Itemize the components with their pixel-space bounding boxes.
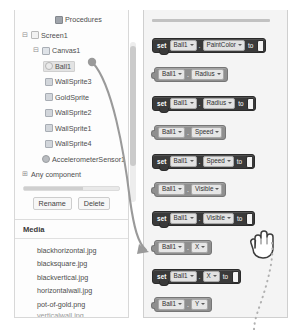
screen-icon xyxy=(31,31,39,39)
dot-separator: . xyxy=(186,301,190,308)
chevron-down-icon xyxy=(227,160,231,162)
property-dropdown[interactable]: Speed xyxy=(203,156,234,167)
component-dropdown[interactable]: Ball1 xyxy=(170,40,197,51)
component-name: Ball1 xyxy=(174,158,188,164)
component-dropdown[interactable]: Ball1 xyxy=(158,127,185,138)
sprite-icon xyxy=(45,109,53,117)
component-name: Ball1 xyxy=(162,301,176,307)
media-item[interactable]: blackvertical.jpg xyxy=(15,271,128,285)
block-get-ball1-y[interactable]: Ball1 . Y xyxy=(154,297,212,312)
block-set-ball1-visible[interactable]: set Ball1 . Visible to xyxy=(152,211,255,226)
media-item[interactable]: verticalwall.jpg xyxy=(15,311,128,318)
collapse-icon[interactable]: ⊟ xyxy=(21,32,28,39)
value-socket[interactable] xyxy=(247,98,253,110)
tree-item-procedures[interactable]: ⊡ Procedures xyxy=(15,12,128,28)
property-dropdown[interactable]: Radius xyxy=(203,98,236,109)
sprite-icon xyxy=(45,93,53,101)
chevron-down-icon xyxy=(178,131,182,133)
block-set-ball1-paintcolor[interactable]: set Ball1 . PaintColor to xyxy=(152,38,266,53)
property-dropdown[interactable]: X xyxy=(191,242,208,253)
blocks-drawer-panel[interactable]: set Ball1 . PaintColor to Ball1 . Radius… xyxy=(143,10,288,318)
property-dropdown[interactable]: Visible xyxy=(191,184,222,195)
tree-item-label: WallSprite1 xyxy=(55,124,91,133)
component-dropdown[interactable]: Ball1 xyxy=(170,98,197,109)
property-dropdown[interactable]: PaintColor xyxy=(203,40,245,51)
rename-button[interactable]: Rename xyxy=(33,197,72,210)
delete-button[interactable]: Delete xyxy=(78,197,111,210)
tree-item-goldsprite[interactable]: GoldSprite xyxy=(15,90,128,106)
media-file-list[interactable]: blackhorizontal.jpg blacksquare.jpg blac… xyxy=(15,239,128,318)
chevron-down-icon xyxy=(190,44,194,46)
component-name: Ball1 xyxy=(162,129,176,135)
chevron-down-icon xyxy=(215,188,219,190)
tree-item-label: Canvas1 xyxy=(52,46,80,55)
component-name: Ball1 xyxy=(162,71,176,77)
set-keyword: set xyxy=(155,215,169,222)
component-dropdown[interactable]: Ball1 xyxy=(158,299,185,310)
block-get-ball1-visible[interactable]: Ball1 . Visible xyxy=(154,182,226,197)
component-dropdown[interactable]: Ball1 xyxy=(158,242,185,253)
property-dropdown[interactable]: Radius xyxy=(191,69,224,80)
property-dropdown[interactable]: Visible xyxy=(203,213,234,224)
tree-item-accelerometersensor1[interactable]: ⊡ AccelerometerSensor1 xyxy=(15,152,128,168)
component-dropdown[interactable]: Ball1 xyxy=(158,184,185,195)
block-get-ball1-x[interactable]: Ball1 . X xyxy=(154,240,212,255)
tree-item-label: WallSprite4 xyxy=(55,139,91,148)
value-socket[interactable] xyxy=(257,40,263,52)
chevron-down-icon xyxy=(227,217,231,219)
set-keyword: set xyxy=(155,273,169,280)
component-tree[interactable]: ⊡ Procedures ⊟ Screen1 ⊟ Canvas1 Ball1 xyxy=(15,10,128,183)
tree-item-label: GoldSprite xyxy=(55,93,89,102)
dot-separator: . xyxy=(198,42,202,49)
components-and-media-panel: ⊡ Procedures ⊟ Screen1 ⊟ Canvas1 Ball1 xyxy=(14,10,129,318)
property-name: X xyxy=(195,244,199,250)
sprite-icon xyxy=(45,124,53,132)
block-get-ball1-radius[interactable]: Ball1 . Radius xyxy=(154,67,228,82)
expand-icon[interactable]: ⊞ xyxy=(21,171,28,178)
tree-horizontal-scrollbar[interactable] xyxy=(23,186,120,191)
media-item[interactable]: horizontalwall.jpg xyxy=(15,284,128,298)
value-socket[interactable] xyxy=(246,156,252,168)
procedures-icon xyxy=(55,16,63,24)
property-name: PaintColor xyxy=(207,42,236,48)
property-name: Y xyxy=(195,301,199,307)
value-socket[interactable] xyxy=(232,271,238,283)
block-set-ball1-speed[interactable]: set Ball1 . Speed to xyxy=(152,154,255,169)
block-set-ball1-x[interactable]: set Ball1 . X to xyxy=(152,269,241,284)
component-dropdown[interactable]: Ball1 xyxy=(170,271,197,282)
drawer-top-divider xyxy=(152,19,270,22)
block-get-ball1-speed[interactable]: Ball1 . Speed xyxy=(154,125,226,140)
hand-cursor xyxy=(247,228,275,260)
tree-item-label: Ball1 xyxy=(55,62,71,71)
tree-item-screen1[interactable]: ⊟ Screen1 xyxy=(15,28,128,44)
tree-item-ball1[interactable]: Ball1 xyxy=(15,59,128,75)
property-name: X xyxy=(207,273,211,279)
set-keyword: set xyxy=(155,100,169,107)
sprite-icon xyxy=(45,78,53,86)
property-dropdown[interactable]: X xyxy=(203,271,220,282)
tree-item-wallsprite3[interactable]: WallSprite3 xyxy=(15,74,128,90)
tree-item-wallsprite4[interactable]: WallSprite4 xyxy=(15,136,128,152)
media-item[interactable]: blacksquare.jpg xyxy=(15,257,128,271)
block-set-ball1-radius[interactable]: set Ball1 . Radius to xyxy=(152,96,256,111)
tree-item-any-component[interactable]: ⊞ Any component xyxy=(15,167,128,183)
set-keyword: set xyxy=(155,42,169,49)
tree-item-label: Procedures xyxy=(65,15,102,24)
media-header: Media xyxy=(15,220,128,239)
property-dropdown[interactable]: Speed xyxy=(191,127,222,138)
chevron-down-icon xyxy=(178,303,182,305)
chevron-down-icon xyxy=(178,246,182,248)
component-dropdown[interactable]: Ball1 xyxy=(158,69,185,80)
media-item[interactable]: blackhorizontal.jpg xyxy=(15,244,128,258)
tree-item-wallsprite2[interactable]: WallSprite2 xyxy=(15,105,128,121)
component-name: Ball1 xyxy=(174,100,188,106)
tree-item-wallsprite1[interactable]: WallSprite1 xyxy=(15,121,128,137)
property-dropdown[interactable]: Y xyxy=(191,299,208,310)
media-item[interactable]: pot-of-gold.png xyxy=(15,298,128,312)
tree-item-canvas1[interactable]: ⊟ Canvas1 xyxy=(15,43,128,59)
component-dropdown[interactable]: Ball1 xyxy=(170,156,197,167)
value-socket[interactable] xyxy=(246,213,252,225)
collapse-icon[interactable]: ⊟ xyxy=(32,47,39,54)
tree-vertical-scrollbar[interactable] xyxy=(130,42,136,202)
component-dropdown[interactable]: Ball1 xyxy=(170,213,197,224)
